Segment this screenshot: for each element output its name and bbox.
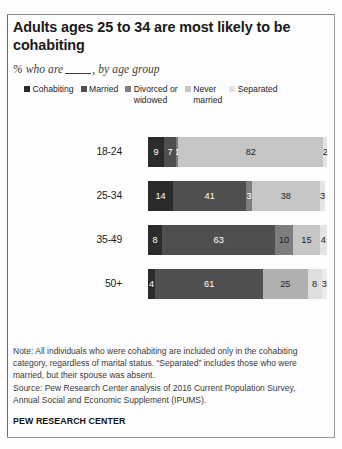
bar-segment-married: 7: [164, 137, 176, 167]
bar-segment-value: 7: [168, 147, 173, 157]
frame-border-bottom: [7, 437, 335, 438]
frame-border-left: [7, 14, 8, 438]
bar-segment-married: 61: [155, 269, 263, 299]
category-label-18-24: 18-24: [13, 146, 133, 157]
stacked-bar: 971822: [148, 137, 327, 167]
chart-row: 25-3414413383: [13, 178, 329, 222]
bar-segment-value: 14: [155, 191, 165, 201]
stacked-bar: 86310154: [148, 225, 327, 255]
bar-segment-separated: 3: [322, 269, 327, 299]
subtitle-prefix: % who are: [13, 63, 63, 75]
pew-chart-figure: Adults ages 25 to 34 are most likely to …: [0, 0, 342, 449]
bar-segment-value: 3: [320, 191, 325, 201]
organization-label: PEW RESEARCH CENTER: [13, 415, 323, 427]
bar-segment-married: 63: [162, 225, 275, 255]
legend-item-never: Never married: [185, 84, 223, 105]
legend-item-separated: Separated: [229, 84, 277, 95]
legend-item-cohabiting: Cohabiting: [24, 84, 74, 95]
chart-row: 35-4986310154: [13, 222, 329, 266]
bar-segment-never-married: 82: [178, 137, 323, 167]
bar-segment-value: 25: [280, 279, 290, 289]
legend-swatch-icon: [185, 86, 191, 92]
header-block: Adults ages 25 to 34 are most likely to …: [13, 18, 329, 75]
chart-note: Note: All individuals who were cohabitin…: [13, 345, 323, 381]
bar-segment-value: 4: [149, 279, 154, 289]
bar-segment-separated: 2: [323, 137, 327, 167]
legend-item-label: Separated: [238, 84, 278, 95]
bar-segment-value: 15: [301, 235, 311, 245]
bar-segment-never-married: 15: [293, 225, 320, 255]
legend-item-divorced-or: Divorced or widowed: [125, 84, 177, 105]
bar-segment-cohabiting: 8: [148, 225, 162, 255]
bar-segment-divorced-or-widowed: 25: [263, 269, 307, 299]
category-label-25-34: 25-34: [13, 190, 133, 201]
bar-segment-value: 8: [312, 279, 317, 289]
bar-segment-value: 3: [322, 279, 327, 289]
subtitle-suffix: , by age group: [92, 63, 159, 75]
chart-row: 50+4612583: [13, 266, 329, 310]
bar-segment-cohabiting: 14: [148, 181, 173, 211]
chart-plot-area: 18-2497182225-341441338335-498631015450+…: [13, 134, 329, 310]
subtitle-blank: [65, 73, 91, 74]
bar-segment-never-married: 8: [308, 269, 322, 299]
chart-title: Adults ages 25 to 34 are most likely to …: [13, 18, 313, 55]
bar-segment-value: 38: [281, 191, 291, 201]
bar-segment-divorced-or-widowed: 10: [275, 225, 293, 255]
legend-swatch-icon: [24, 86, 30, 92]
bar-segment-never-married: 38: [252, 181, 320, 211]
legend-item-label: Married: [89, 84, 118, 95]
legend-swatch-icon: [81, 86, 87, 92]
frame-border-right: [334, 14, 335, 438]
bar-segment-cohabiting: 9: [148, 137, 164, 167]
bar-segment-value: 63: [214, 235, 224, 245]
bar-segment-value: 2: [323, 147, 327, 157]
bar-segment-married: 41: [173, 181, 246, 211]
stacked-bar: 4612583: [148, 269, 327, 299]
chart-source: Source: Pew Research Center analysis of …: [13, 382, 323, 406]
bar-segment-value: 9: [153, 147, 158, 157]
bar-segment-value: 4: [321, 235, 326, 245]
bar-segment-separated: 3: [320, 181, 325, 211]
bar-segment-value: 61: [204, 279, 214, 289]
chart-subtitle: % who are, by age group: [13, 63, 329, 75]
bar-segment-value: 10: [279, 235, 289, 245]
category-label-50+: 50+: [13, 278, 133, 289]
legend-item-married: Married: [81, 84, 119, 95]
legend-item-label: Cohabiting: [33, 84, 74, 95]
chart-row: 18-24971822: [13, 134, 329, 178]
legend-swatch-icon: [125, 86, 131, 92]
bar-segment-value: 82: [246, 147, 256, 157]
legend-item-label: Divorced or widowed: [134, 84, 178, 105]
bar-segment-value: 41: [205, 191, 215, 201]
footer-block: Note: All individuals who were cohabitin…: [13, 345, 323, 428]
legend-swatch-icon: [229, 86, 235, 92]
stacked-bar: 14413383: [148, 181, 327, 211]
frame-border-top: [7, 14, 335, 15]
bar-segment-separated: 4: [320, 225, 327, 255]
bar-segment-value: 8: [153, 235, 158, 245]
legend-item-label: Never married: [193, 84, 222, 105]
bar-segment-cohabiting: 4: [148, 269, 155, 299]
category-label-35-49: 35-49: [13, 234, 133, 245]
chart-legend: CohabitingMarriedDivorced or widowedNeve…: [24, 84, 334, 105]
